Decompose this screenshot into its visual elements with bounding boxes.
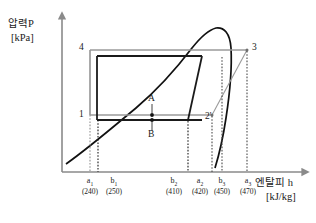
inner-cycle-compression-leg xyxy=(188,56,202,120)
point-markers-group xyxy=(150,49,248,132)
tick-value-b3: (450) xyxy=(208,188,236,196)
y-axis-unit: [kPa] xyxy=(11,33,34,44)
tick-guide-lines xyxy=(90,51,247,172)
point-B-label: B xyxy=(148,130,154,140)
tick-value-b2: (410) xyxy=(160,188,188,196)
tick-label-b3: b3 xyxy=(212,177,232,187)
point-A-label: A xyxy=(148,94,155,104)
tick-value-a3: (470) xyxy=(234,188,262,196)
x-axis-title: 엔탈피 h xyxy=(255,178,293,189)
point-1-label: 1 xyxy=(79,110,84,120)
point-4-label: 4 xyxy=(79,43,84,53)
tick-sub-b1: 1 xyxy=(115,181,118,187)
tick-label-a2: a2 xyxy=(190,177,210,187)
point-B-marker xyxy=(150,118,154,122)
inner-cycle-path xyxy=(97,56,202,120)
tick-label-a1: a1 xyxy=(80,177,100,187)
x-axis-unit: [kJ/kg] xyxy=(266,192,296,203)
tick-sub-a3: 3 xyxy=(248,181,251,187)
outer-cycle-compression-leg xyxy=(212,50,247,115)
chart-figure: 압력P [kPa] 엔탈피 h [kJ/kg] 4 3 1 2' A B a1 … xyxy=(0,0,316,223)
tick-sub-b3: 3 xyxy=(223,181,226,187)
point-3-label: 3 xyxy=(252,43,257,53)
outer-cycle-path xyxy=(90,50,247,115)
tick-value-b1: (250) xyxy=(100,188,128,196)
point-A-marker xyxy=(150,113,154,117)
chart-canvas xyxy=(0,0,316,223)
tick-sub-b2: 2 xyxy=(175,181,178,187)
y-axis-title: 압력P xyxy=(8,19,34,30)
point-2-prime-label: 2' xyxy=(205,112,211,122)
tick-label-a3: a3 xyxy=(238,177,258,187)
tick-sub-a1: 1 xyxy=(90,181,93,187)
tick-label-b2: b2 xyxy=(164,177,184,187)
tick-label-b1: b1 xyxy=(104,177,124,187)
tick-sub-a2: 2 xyxy=(200,181,203,187)
